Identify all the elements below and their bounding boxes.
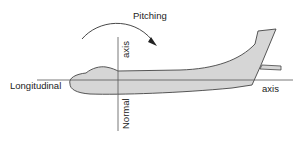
arrowhead-icon [148,37,157,46]
normal-axis-label: Normal [121,98,131,129]
pitching-label: Pitching [133,11,167,21]
longitudinal-axis-suffix: axis [262,84,279,94]
longitudinal-axis-label: Longitudinal [10,81,61,91]
pitching-diagram: Pitching Longitudinal axis axis Normal [0,0,300,142]
tailplane [260,65,281,70]
pitching-arc [82,23,152,40]
fuselage [70,29,276,94]
aircraft-axes-figure [0,0,300,142]
aircraft-silhouette [70,29,281,94]
normal-axis-suffix: axis [121,41,131,58]
